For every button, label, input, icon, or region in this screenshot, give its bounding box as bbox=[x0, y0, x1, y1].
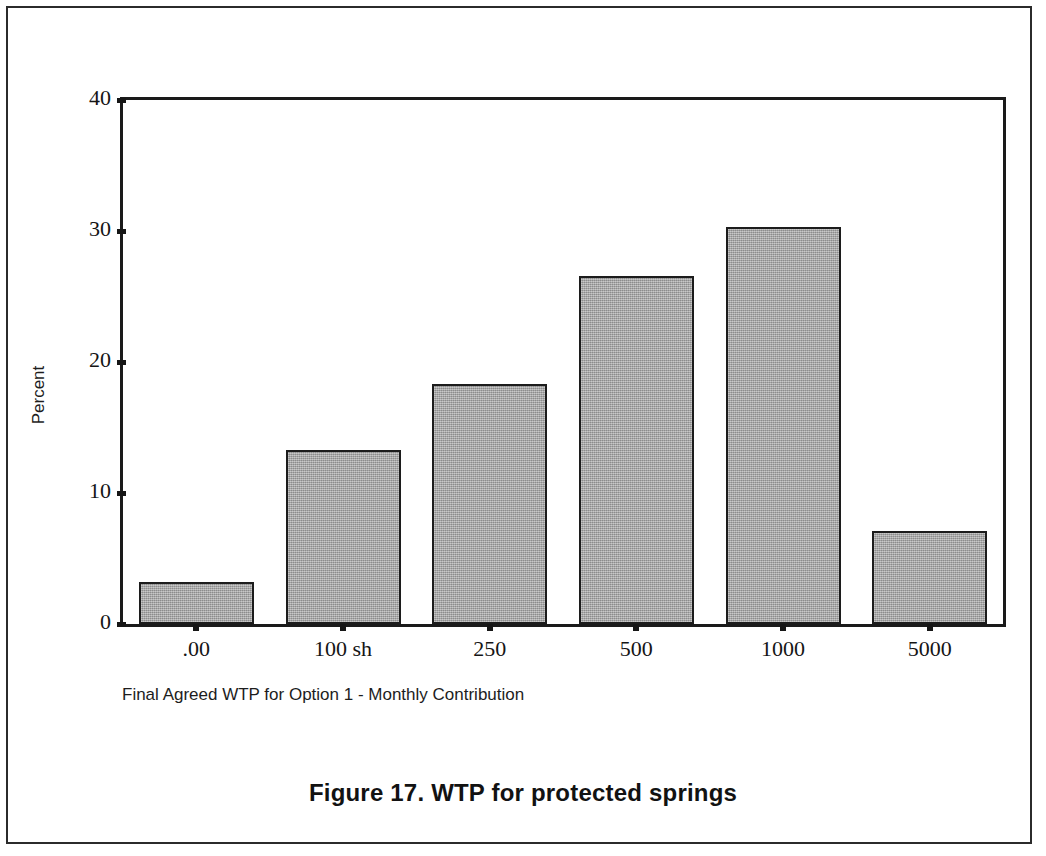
bar bbox=[872, 531, 987, 624]
y-axis-tick bbox=[117, 229, 126, 234]
bar bbox=[432, 384, 547, 624]
x-axis-tick-label: 250 bbox=[410, 636, 570, 662]
bar bbox=[579, 276, 694, 624]
x-axis-tick bbox=[340, 624, 346, 631]
x-axis-tick-label: 1000 bbox=[703, 636, 863, 662]
y-axis-tick-label: 10 bbox=[41, 480, 111, 502]
y-axis-label: Percent bbox=[29, 325, 59, 465]
x-axis-tick bbox=[633, 624, 639, 631]
x-axis-tick bbox=[780, 624, 786, 631]
x-axis-tick-label: 5000 bbox=[850, 636, 1010, 662]
x-axis-label: Final Agreed WTP for Option 1 - Monthly … bbox=[122, 685, 524, 705]
figure-caption: Figure 17. WTP for protected springs bbox=[0, 779, 1046, 807]
y-axis-tick bbox=[117, 622, 126, 627]
scanned-page: Percent 010203040 .00100 sh2505001000500… bbox=[0, 0, 1046, 856]
y-axis-tick-label: 40 bbox=[41, 87, 111, 109]
x-axis-tick-label: 500 bbox=[556, 636, 716, 662]
y-axis-tick-label: 0 bbox=[41, 611, 111, 633]
y-axis-tick bbox=[117, 98, 126, 103]
bar bbox=[726, 227, 841, 624]
x-axis-tick-label: 100 sh bbox=[263, 636, 423, 662]
y-axis-tick bbox=[117, 491, 126, 496]
x-axis-tick bbox=[487, 624, 493, 631]
bar bbox=[286, 450, 401, 624]
x-axis-tick bbox=[927, 624, 933, 631]
y-axis-tick bbox=[117, 360, 126, 365]
y-axis-tick-label: 20 bbox=[41, 349, 111, 371]
y-axis-tick-label: 30 bbox=[41, 218, 111, 240]
x-axis-tick-label: .00 bbox=[116, 636, 276, 662]
plot-frame: 010203040 .00100 sh25050010005000 bbox=[120, 97, 1006, 627]
x-axis-tick bbox=[193, 624, 199, 631]
bar bbox=[139, 582, 254, 624]
plot-area: 010203040 bbox=[123, 100, 1003, 624]
figure-bar-chart: Percent 010203040 .00100 sh2505001000500… bbox=[0, 0, 1046, 856]
